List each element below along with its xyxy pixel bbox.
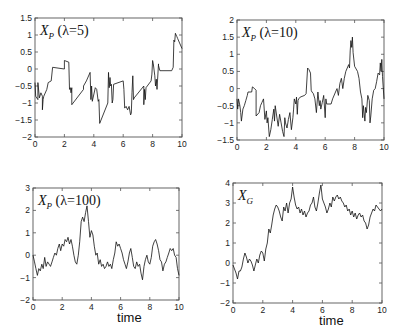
x-tick-label: 8 <box>150 139 155 149</box>
y-tick-label: 1.5 <box>20 13 32 23</box>
figure-canvas: 0246810−2−1.5−1−0.500.511.5 XP (λ=5) 024… <box>0 0 407 334</box>
y-tick-label: 2 <box>25 205 30 215</box>
y-tick-label: −0.5 <box>217 101 234 111</box>
y-tick-label: −1.5 <box>15 115 32 125</box>
axes-frame <box>233 183 382 303</box>
x-tick-label: 6 <box>323 142 328 152</box>
y-tick-label: 0 <box>27 64 32 74</box>
x-tick-label: 0 <box>235 142 240 152</box>
y-tick-label: 0 <box>25 250 30 260</box>
x-tick-label: 2 <box>62 139 67 149</box>
y-tick-label: 2 <box>225 218 230 228</box>
x-tick-label: 10 <box>174 302 184 312</box>
y-tick-label: −1.5 <box>217 135 234 145</box>
x-tick-label: 2 <box>264 142 269 152</box>
x-tick-label: 4 <box>91 139 96 149</box>
y-tick-label: 1 <box>225 238 230 248</box>
x-tick-label: 4 <box>89 302 94 312</box>
y-tick-label: 0 <box>229 84 234 94</box>
y-tick-label: 1.5 <box>222 32 234 42</box>
y-tick-label: −1 <box>22 98 32 108</box>
y-tick-label: 2 <box>229 15 234 25</box>
series-line <box>233 185 382 279</box>
y-tick-label: 1 <box>25 228 30 238</box>
x-tick-label: 0 <box>231 305 236 315</box>
x-tick-label: 0 <box>33 139 38 149</box>
y-tick-label: −1 <box>220 278 230 288</box>
y-tick-label: −1 <box>20 273 30 283</box>
subplot-xp-lambda-10: 0246810−1.5−1−0.500.511.52 XP (λ=10) <box>217 15 389 152</box>
x-tick-label: 0 <box>31 302 36 312</box>
x-tick-label: 6 <box>121 139 126 149</box>
y-tick-label: −1 <box>224 118 234 128</box>
y-tick-label: −2 <box>22 132 32 142</box>
x-axis-label: time <box>319 313 344 328</box>
y-tick-label: −2 <box>20 295 30 305</box>
series-line <box>237 37 384 137</box>
x-axis-label: time <box>117 310 142 325</box>
y-tick-label: 0.5 <box>20 47 32 57</box>
series-line <box>35 33 182 123</box>
x-tick-label: 10 <box>377 305 387 315</box>
x-tick-label: 10 <box>379 142 389 152</box>
x-tick-label: 2 <box>60 302 65 312</box>
y-tick-label: 3 <box>225 198 230 208</box>
x-tick-label: 8 <box>352 142 357 152</box>
y-tick-label: 0 <box>225 258 230 268</box>
plot-title: XP (λ=5) <box>39 23 89 41</box>
y-tick-label: 3 <box>25 183 30 193</box>
plot-title: XG <box>237 188 254 206</box>
subplot-xg: 0246810−2−101234 XG time <box>220 178 387 328</box>
x-tick-label: 8 <box>147 302 152 312</box>
y-tick-label: 1 <box>229 49 234 59</box>
plot-title: XP (λ=10) <box>241 25 298 43</box>
x-tick-label: 2 <box>260 305 265 315</box>
y-tick-label: 4 <box>225 178 230 188</box>
x-tick-label: 4 <box>290 305 295 315</box>
y-tick-label: 0.5 <box>222 66 234 76</box>
y-tick-label: −0.5 <box>15 81 32 91</box>
series-line <box>33 206 179 280</box>
y-tick-label: −2 <box>220 298 230 308</box>
y-tick-label: 1 <box>27 30 32 40</box>
x-tick-label: 10 <box>177 139 187 149</box>
x-tick-label: 4 <box>293 142 298 152</box>
subplot-xp-lambda-5: 0246810−2−1.5−1−0.500.511.5 XP (λ=5) <box>15 13 187 149</box>
x-tick-label: 8 <box>350 305 355 315</box>
subplot-xp-lambda-100: 0246810−2−10123 XP (λ=100) time <box>20 183 184 325</box>
plot-title: XP (λ=100) <box>37 193 101 211</box>
